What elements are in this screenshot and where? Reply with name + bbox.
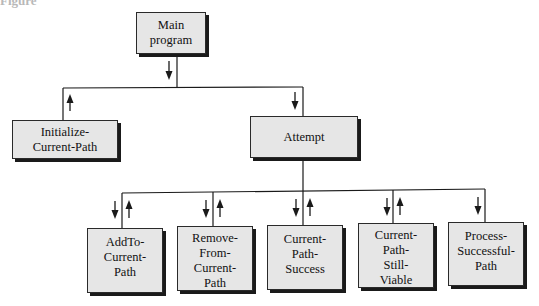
node-addto-current-path: AddTo- Current- Path	[87, 228, 163, 293]
arrow-down-icon	[166, 61, 173, 80]
arrow-down-icon	[203, 200, 210, 218]
node-label: Initialize- Current-Path	[33, 125, 98, 155]
arrow-down-icon	[292, 92, 299, 110]
node-label: Current- Path- Success	[284, 232, 326, 277]
arrow-up-icon	[397, 197, 404, 215]
node-label: Remove- From- Current- Path	[192, 231, 238, 291]
node-label: Current- Path- Still- Viable	[375, 228, 417, 288]
structure-chart: Figure	[0, 0, 539, 306]
arrow-up-icon	[307, 198, 314, 216]
node-current-path-success: Current- Path- Success	[267, 225, 343, 290]
node-label: Process- Successful- Path	[457, 229, 515, 274]
node-attempt: Attempt	[250, 116, 358, 158]
node-label: AddTo- Current- Path	[104, 235, 146, 280]
node-current-path-still-viable: Current- Path- Still- Viable	[358, 223, 434, 288]
arrow-down-icon	[112, 201, 119, 219]
node-process-successful-path: Process- Successful- Path	[448, 222, 524, 286]
arrow-up-icon	[126, 200, 133, 218]
node-label: Main program	[150, 18, 192, 48]
node-initialize-current-path: Initialize- Current-Path	[12, 120, 118, 159]
node-main-program: Main program	[136, 12, 206, 54]
arrow-down-icon	[475, 197, 482, 215]
arrow-down-icon	[293, 199, 300, 217]
node-remove-from-current-path: Remove- From- Current- Path	[177, 226, 253, 291]
arrow-up-icon	[217, 199, 224, 217]
arrow-up-icon	[67, 94, 74, 111]
node-label: Attempt	[284, 130, 325, 145]
arrow-down-icon	[384, 198, 391, 216]
